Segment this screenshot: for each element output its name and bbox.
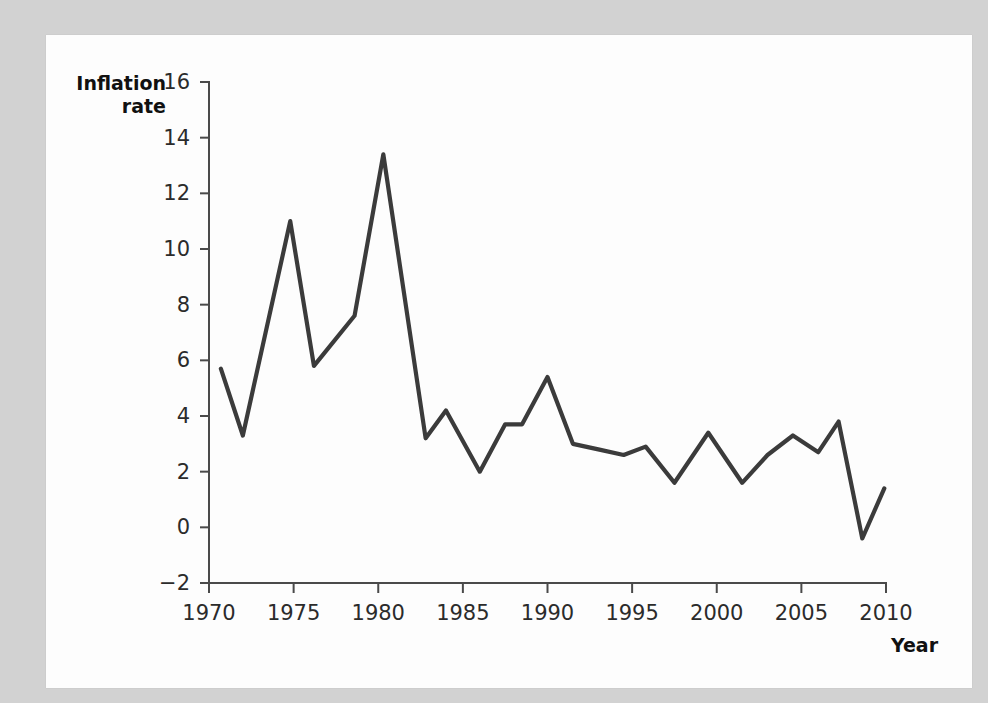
y-axis-title: Inflation rate [76,72,166,117]
x-axis-tick-label: 2005 [775,601,828,625]
y-axis-tick-label: 12 [163,181,190,205]
x-axis-tick-label: 1990 [521,601,574,625]
x-axis-tick-label: 1975 [267,601,320,625]
y-axis-title-line1: Inflation [76,72,166,94]
y-axis-tick-label: 4 [177,404,190,428]
page-root: Inflation rate −20246810121416 197019751… [0,0,988,703]
x-axis-title: Year [890,634,939,656]
y-axis-tick-label: 2 [177,460,190,484]
y-axis-tick-label: 16 [163,70,190,94]
chart-svg: Inflation rate −20246810121416 197019751… [0,0,988,703]
x-axis-tick-label: 2000 [690,601,743,625]
y-axis-tick-label: 14 [163,126,190,150]
y-axis-tick-label: 8 [177,293,190,317]
y-axis-title-line2: rate [122,95,166,117]
y-axis-tick-label: 10 [163,237,190,261]
x-axis-tick-label: 1970 [182,601,235,625]
y-axis-tick-group: −20246810121416 [159,70,209,595]
x-axis-tick-label: 2010 [859,601,912,625]
x-axis-tick-label: 1995 [605,601,658,625]
y-axis-tick-label: −2 [159,571,190,595]
x-axis-tick-group: 197019751980198519901995200020052010 [182,583,912,625]
y-axis-tick-label: 6 [177,348,190,372]
inflation-rate-line-chart: Inflation rate −20246810121416 197019751… [0,0,988,703]
x-axis-tick-label: 1980 [352,601,405,625]
inflation-rate-series-line [221,154,884,538]
y-axis-tick-label: 0 [177,515,190,539]
x-axis-tick-label: 1985 [436,601,489,625]
